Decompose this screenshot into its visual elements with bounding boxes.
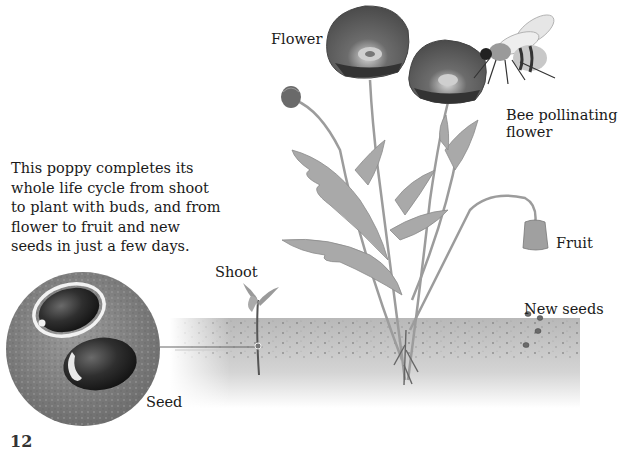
description-caption: This poppy completes its whole life cycl…	[11, 159, 221, 257]
poppy-fruit-capsule	[523, 220, 548, 250]
label-fruit: Fruit	[556, 235, 593, 252]
label-new-seeds: New seeds	[524, 301, 604, 318]
page-number: 12	[10, 432, 32, 451]
poppy-bud	[281, 86, 301, 108]
caption-line: seeds in just a few days.	[11, 237, 221, 257]
poppy-flower-second	[409, 40, 487, 104]
caption-line: whole life cycle from shoot	[11, 179, 221, 199]
seed-closeup-disc	[6, 272, 160, 426]
poppy-leaves	[282, 115, 478, 295]
poppy-flower-main	[327, 6, 409, 78]
label-seed: Seed	[146, 394, 182, 411]
label-flower: Flower	[271, 31, 322, 48]
caption-line: flower to fruit and new	[11, 218, 221, 238]
label-bee-line1: Bee pollinating	[506, 107, 617, 124]
caption-line: This poppy completes its	[11, 159, 221, 179]
caption-line: to plant with buds, and from	[11, 198, 221, 218]
label-bee-line2: flower	[506, 124, 552, 141]
label-shoot: Shoot	[215, 264, 258, 281]
soil-layer	[170, 318, 580, 408]
